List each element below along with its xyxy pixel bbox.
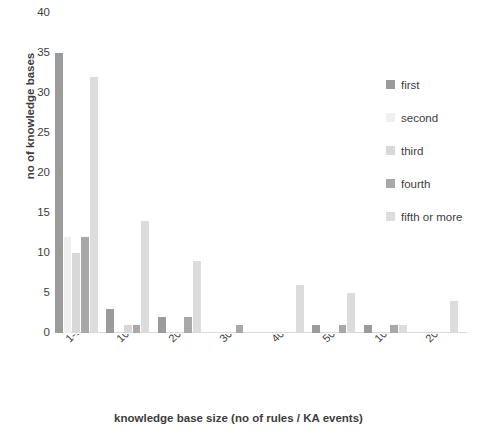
bar (106, 309, 114, 333)
bar (184, 317, 192, 333)
y-axis-tick: 40 (6, 7, 50, 19)
y-axis-tick: 0 (6, 327, 50, 339)
y-axis-tick: 15 (6, 207, 50, 219)
y-axis-tick: 20 (6, 167, 50, 179)
bar-chart-figure: no of knowledge bases 4035302520151050 1… (0, 0, 477, 433)
bar (347, 293, 355, 333)
legend-swatch-icon (386, 80, 395, 89)
legend-item: fifth or more (386, 200, 477, 233)
y-axis-tick: 10 (6, 247, 50, 259)
bar-group (261, 13, 305, 333)
bar (124, 325, 132, 333)
bar (55, 53, 63, 333)
x-axis-tick-label: 200 (423, 334, 445, 344)
bar (158, 317, 166, 333)
bar-group (209, 13, 253, 333)
x-axis-tick-label: 101-200 (114, 334, 152, 344)
bar (450, 301, 458, 333)
bar-group (55, 13, 99, 333)
bar (390, 325, 398, 333)
chart-title (0, 0, 477, 3)
legend-label: fourth (401, 178, 430, 190)
bar (236, 325, 244, 333)
legend-swatch-icon (386, 146, 395, 155)
bar (193, 261, 201, 333)
x-axis-tick-label: 1-100 (63, 334, 92, 344)
legend-item: third (386, 134, 477, 167)
x-axis-tick-label: 201-300 (166, 334, 204, 344)
legend-label: third (401, 145, 423, 157)
bar (296, 285, 304, 333)
bar (364, 325, 372, 333)
x-axis-category-labels: 1-100101-200201-300301-400401-500501-100… (55, 334, 477, 396)
x-axis-tick-label: 401-500 (269, 334, 307, 344)
bar-group (312, 13, 356, 333)
bar (81, 237, 89, 333)
bar-group (158, 13, 202, 333)
x-axis-title: knowledge base size (no of rules / KA ev… (0, 412, 477, 424)
y-axis-tick: 35 (6, 47, 50, 59)
bar (141, 221, 149, 333)
bar (312, 325, 320, 333)
x-axis-tick-label: 501-1000 (320, 334, 362, 344)
legend-label: fifth or more (401, 211, 462, 223)
bar (90, 77, 98, 333)
y-axis-tick-labels: 4035302520151050 (0, 0, 50, 433)
chart-legend: firstsecondthirdfourthfifth or more (386, 68, 477, 233)
legend-item: fourth (386, 167, 477, 200)
legend-item: first (386, 68, 477, 101)
y-axis-tick: 25 (6, 127, 50, 139)
bar (133, 325, 141, 333)
legend-swatch-icon (386, 113, 395, 122)
bar (64, 237, 72, 333)
bar (72, 253, 80, 333)
legend-label: first (401, 79, 420, 91)
y-axis-tick: 30 (6, 87, 50, 99)
legend-swatch-icon (386, 179, 395, 188)
x-axis-tick-label: 301-400 (217, 334, 255, 344)
x-axis-tick-label: 1001-2000 (372, 334, 418, 344)
legend-label: second (401, 112, 438, 124)
bar (399, 325, 407, 333)
legend-item: second (386, 101, 477, 134)
bar-group (106, 13, 150, 333)
y-axis-tick: 5 (6, 287, 50, 299)
bar (339, 325, 347, 333)
legend-swatch-icon (386, 212, 395, 221)
